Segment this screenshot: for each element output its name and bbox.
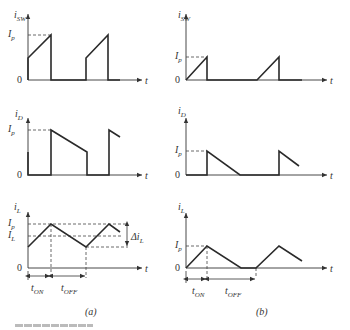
x-axis-label: t: [330, 263, 333, 274]
inductor-current-waveform: [28, 224, 120, 247]
panel-b-caption: (b): [256, 306, 268, 318]
diode-current-waveform: [186, 151, 299, 175]
panel-b: iSW Ip 0 t iD Ip 0 t iL Ip 0 t: [174, 9, 333, 318]
diode-current-waveform: [28, 130, 120, 175]
tick-label-zero: 0: [17, 169, 22, 180]
plot-b-diode-current: iD Ip 0 t: [174, 105, 333, 181]
plot-b-inductor-current: iL Ip 0 t tON tOFF: [174, 201, 333, 299]
inductor-current-waveform: [186, 246, 302, 268]
tick-label-peak: Ip: [174, 239, 182, 253]
y-axis-label: iD: [15, 108, 23, 122]
tick-label-peak: Ip: [7, 28, 15, 42]
y-axis-label: iSW: [178, 9, 191, 23]
tick-label-peak: Ip: [174, 144, 182, 158]
ripple-label: ΔiL: [130, 231, 144, 245]
y-axis-label: iD: [178, 105, 186, 119]
figure-label-cutoff: [15, 324, 93, 327]
tick-label-peak: Ip: [174, 50, 182, 64]
x-axis-label: t: [145, 263, 148, 274]
toff-label: tOFF: [225, 285, 242, 299]
tick-label-zero: 0: [17, 74, 22, 85]
ton-label: tON: [192, 285, 205, 299]
switch-current-waveform: [28, 35, 120, 80]
x-axis-label: t: [145, 75, 148, 86]
plot-b-switch-current: iSW Ip 0 t: [174, 9, 333, 86]
x-axis-label: t: [330, 75, 333, 86]
x-axis-label: t: [145, 170, 148, 181]
x-axis-label: t: [330, 170, 333, 181]
tick-label-zero: 0: [17, 262, 22, 273]
y-axis-label: iSW: [14, 9, 27, 23]
switch-current-waveform: [186, 57, 302, 80]
panel-a-caption: (a): [85, 306, 97, 318]
toff-label: tOFF: [61, 282, 78, 296]
plot-a-inductor-current: ΔiL iL Ip IL 0 t tON tOFF: [7, 201, 148, 296]
tick-label-zero: 0: [175, 169, 180, 180]
y-axis-label: iL: [14, 201, 21, 215]
plot-a-switch-current: iSW Ip 0 t: [7, 9, 148, 86]
y-axis-label: iL: [178, 201, 185, 215]
plot-a-diode-current: iD Ip 0 t: [7, 108, 148, 181]
waveform-diagram: iSW Ip 0 t iD Ip 0 t ΔiL: [0, 0, 350, 330]
tick-label-zero: 0: [175, 262, 180, 273]
tick-label-zero: 0: [175, 74, 180, 85]
tick-label-peak: Ip: [7, 123, 15, 137]
tick-label-average: IL: [7, 229, 15, 243]
panel-a: iSW Ip 0 t iD Ip 0 t ΔiL: [7, 9, 148, 318]
ton-label: tON: [31, 282, 44, 296]
